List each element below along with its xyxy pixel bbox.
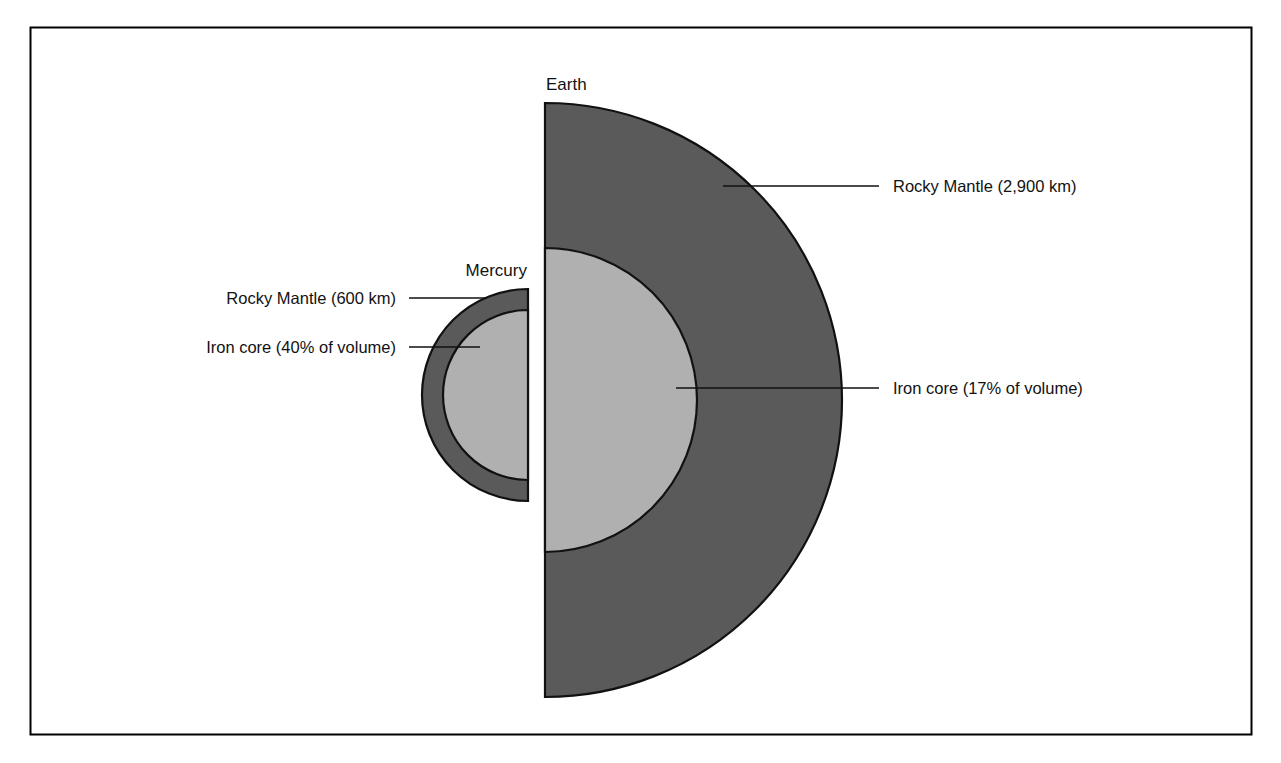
mercury-core-label: Iron core (40% of volume) — [206, 338, 396, 356]
mercury-mantle-label: Rocky Mantle (600 km) — [226, 289, 396, 307]
figure-root: Earth Mercury Rocky Mantle (2,900 km) Ir… — [0, 0, 1281, 763]
mercury-title-label: Mercury — [466, 261, 528, 280]
earth-core-label: Iron core (17% of volume) — [893, 379, 1083, 397]
earth-mantle-label: Rocky Mantle (2,900 km) — [893, 177, 1076, 195]
earth-title-label: Earth — [546, 75, 587, 94]
planet-interior-diagram: Earth Mercury Rocky Mantle (2,900 km) Ir… — [0, 0, 1281, 763]
